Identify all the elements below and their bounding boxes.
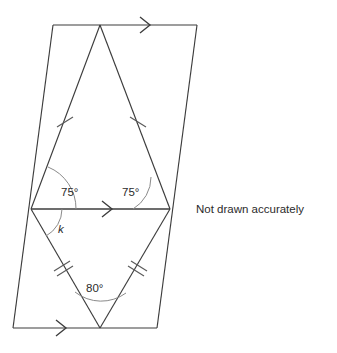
parallelogram-right-edge [157, 25, 197, 328]
angle-label-right-75: 75° [122, 186, 139, 198]
geometry-figure: 75° 75° k 80° Not drawn accurately [0, 0, 337, 353]
geometry-canvas: 75° 75° k 80° Not drawn accurately [0, 0, 337, 353]
angle-label-left-75: 75° [61, 186, 78, 198]
angle-label-k: k [58, 223, 65, 235]
parallelogram-outline [13, 25, 197, 328]
angle-label-bottom-80: 80° [86, 282, 103, 294]
upper-triangle [31, 25, 170, 209]
lower-triangle-left-side [31, 209, 100, 328]
upper-triangle-right-side [100, 25, 170, 209]
parallelogram-left-edge [13, 25, 53, 328]
tick-marks-upper [57, 117, 146, 127]
lower-triangle [31, 209, 170, 328]
not-drawn-accurately-note: Not drawn accurately [196, 203, 304, 215]
